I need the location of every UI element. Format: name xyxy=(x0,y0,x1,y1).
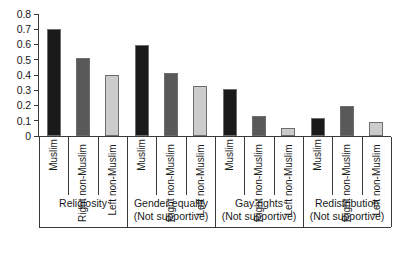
y-axis: 00.10.20.30.40.50.60.70.8 xyxy=(0,0,38,145)
tick-separator xyxy=(186,137,187,195)
bar xyxy=(369,122,383,136)
group-label-line1: Religiosity xyxy=(39,197,127,210)
group-label-line1: Redistribution xyxy=(303,197,391,210)
group-label: Religiosity xyxy=(39,197,127,210)
group-label-line1: Gender equality xyxy=(127,197,215,210)
tick-separator xyxy=(362,137,363,195)
y-axis-tick-label: 0.4 xyxy=(17,70,34,81)
group-label-line1: Gay rights xyxy=(215,197,303,210)
bar-slot xyxy=(135,14,149,136)
group-baseline xyxy=(127,227,215,228)
bar-slot xyxy=(311,14,325,136)
group-separator xyxy=(39,137,40,227)
group-baseline xyxy=(39,227,127,228)
bar-slot xyxy=(76,14,90,136)
tick-separator xyxy=(68,137,69,195)
bar-slot xyxy=(47,14,61,136)
bar-slot xyxy=(340,14,354,136)
plot-area xyxy=(39,14,391,136)
bar-slot xyxy=(369,14,383,136)
y-axis-tick-label: 0.6 xyxy=(17,39,34,50)
group-baseline xyxy=(215,227,303,228)
group-label-line2: (Not supportive) xyxy=(127,210,215,223)
tick-separator xyxy=(98,137,99,195)
group-label-line2: (Not supportive) xyxy=(303,210,391,223)
group-label: Gay rights(Not supportive) xyxy=(215,197,303,222)
y-axis-tick-label: 0.3 xyxy=(17,85,34,96)
tick-separator xyxy=(274,137,275,195)
group-label: Gender equality(Not supportive) xyxy=(127,197,215,222)
y-axis-tick-label: 0.2 xyxy=(17,100,34,111)
y-axis-tick-label: 0.8 xyxy=(17,9,34,20)
bar xyxy=(311,118,325,136)
tick-separator xyxy=(156,137,157,195)
tick-separator xyxy=(244,137,245,195)
bar xyxy=(340,106,354,137)
group-label-line2: (Not supportive) xyxy=(215,210,303,223)
bar xyxy=(164,73,178,136)
group-baseline xyxy=(303,227,391,228)
bar-slot xyxy=(164,14,178,136)
y-axis-tick-label: 0.1 xyxy=(17,116,34,127)
bar xyxy=(76,58,90,136)
group-label: Redistribution(Not supportive) xyxy=(303,197,391,222)
x-axis-tick-label-cell: Left non-Muslim xyxy=(342,137,410,205)
bar-slot xyxy=(193,14,207,136)
bar xyxy=(135,45,149,137)
bar xyxy=(47,29,61,136)
bar xyxy=(193,86,207,136)
tick-separator xyxy=(332,137,333,195)
bar xyxy=(105,75,119,136)
bar xyxy=(223,89,237,136)
bar xyxy=(281,128,295,136)
bar-chart: 00.10.20.30.40.50.60.70.8 MuslimRight no… xyxy=(0,0,410,264)
bar-slot xyxy=(105,14,119,136)
bar-slot xyxy=(281,14,295,136)
bar-slot xyxy=(223,14,237,136)
y-axis-tick-label: 0.7 xyxy=(17,24,34,35)
group-separator xyxy=(391,137,392,227)
bar-slot xyxy=(252,14,266,136)
bar xyxy=(252,116,266,136)
y-axis-tick-label: 0.5 xyxy=(17,55,34,66)
